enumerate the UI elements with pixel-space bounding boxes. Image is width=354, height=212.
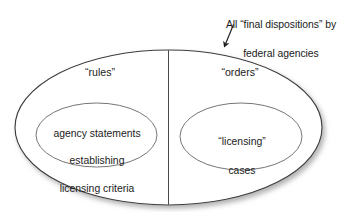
diagram-canvas: All “final dispositions” by federal agen… [0,0,354,212]
callout-label-line1: All “final dispositions” by [208,18,354,32]
label-orders: “orders” [190,66,290,79]
label-orders-inner: “licensing” cases [180,121,304,192]
label-rules: “rules” [50,66,150,79]
label-rules-inner: agency statements establishing licensing… [34,113,160,210]
label-orders-inner-line1: “licensing” [180,135,304,149]
callout-label-line2: federal agencies [208,47,354,61]
label-orders-inner-line2: cases [180,164,304,178]
label-rules-inner-line1: agency statements [34,127,160,141]
label-rules-inner-line3: licensing criteria [34,182,160,196]
label-rules-inner-line2: establishing [34,154,160,168]
